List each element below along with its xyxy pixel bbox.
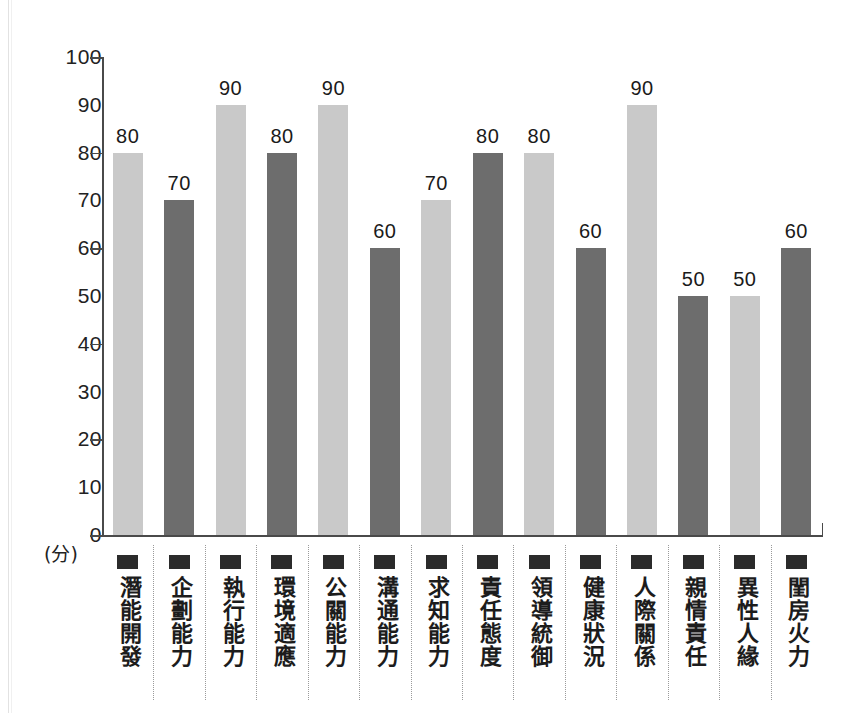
category-marker-icon bbox=[631, 555, 652, 569]
bar-value-label: 80 bbox=[106, 126, 150, 146]
bar-value-label: 80 bbox=[466, 126, 510, 146]
category-marker-icon bbox=[580, 555, 601, 569]
bar bbox=[473, 153, 503, 535]
category-label-text: 閨房火力 bbox=[784, 576, 808, 668]
bar bbox=[113, 153, 143, 535]
bar bbox=[524, 153, 554, 535]
category-label-3: 執行能力 bbox=[205, 545, 256, 705]
bar-value-label: 80 bbox=[260, 126, 304, 146]
category-label-11: 人際關係 bbox=[616, 545, 667, 705]
category-label-text: 求知能力 bbox=[424, 576, 448, 668]
y-axis-tick-label: 50 bbox=[44, 285, 102, 306]
category-label-12: 親情責任 bbox=[668, 545, 719, 705]
y-axis-tick-mark bbox=[90, 57, 102, 59]
category-label-8: 責任態度 bbox=[462, 545, 513, 705]
bar bbox=[164, 200, 194, 535]
bar bbox=[318, 105, 348, 535]
category-marker-icon bbox=[117, 555, 138, 569]
y-axis-tick-mark bbox=[90, 248, 102, 250]
bar-value-label: 50 bbox=[723, 269, 767, 289]
y-axis-tick-label: 30 bbox=[44, 381, 102, 402]
bar-value-label: 70 bbox=[157, 173, 201, 193]
category-label-text: 親情責任 bbox=[681, 576, 705, 668]
bar bbox=[678, 296, 708, 535]
category-label-text: 責任態度 bbox=[476, 576, 500, 668]
bar-chart-plot-area: (分) 100908070605040302010080潛能開發70企劃能力90… bbox=[0, 0, 865, 713]
category-label-1: 潛能開發 bbox=[102, 545, 153, 705]
y-axis-tick-label: 70 bbox=[44, 189, 102, 210]
category-label-text: 企劃能力 bbox=[167, 576, 191, 668]
bar-value-label: 60 bbox=[363, 221, 407, 241]
category-label-5: 公關能力 bbox=[308, 545, 359, 705]
y-axis-line bbox=[102, 57, 104, 535]
bar bbox=[267, 153, 297, 535]
category-marker-icon bbox=[477, 555, 498, 569]
bar bbox=[576, 248, 606, 535]
y-axis-tick-mark bbox=[90, 535, 102, 537]
bar-value-label: 90 bbox=[209, 78, 253, 98]
y-axis-tick-mark bbox=[90, 344, 102, 346]
bar bbox=[781, 248, 811, 535]
category-label-text: 人際關係 bbox=[630, 576, 654, 668]
bar bbox=[216, 105, 246, 535]
bar bbox=[421, 200, 451, 535]
category-label-2: 企劃能力 bbox=[153, 545, 204, 705]
chart-page: (分) 100908070605040302010080潛能開發70企劃能力90… bbox=[0, 0, 865, 713]
y-axis-unit-label: (分) bbox=[44, 545, 78, 564]
category-label-text: 執行能力 bbox=[219, 576, 243, 668]
y-axis-tick-label: 90 bbox=[44, 94, 102, 115]
bar-value-label: 80 bbox=[517, 126, 561, 146]
category-marker-icon bbox=[683, 555, 704, 569]
bar-value-label: 50 bbox=[671, 269, 715, 289]
y-axis-tick-label: 10 bbox=[44, 476, 102, 497]
bar-value-label: 60 bbox=[569, 221, 613, 241]
category-marker-icon bbox=[529, 555, 550, 569]
category-label-6: 溝通能力 bbox=[359, 545, 410, 705]
category-label-text: 溝通能力 bbox=[373, 576, 397, 668]
category-marker-icon bbox=[734, 555, 755, 569]
category-marker-icon bbox=[374, 555, 395, 569]
category-marker-icon bbox=[220, 555, 241, 569]
x-axis-right-cap bbox=[822, 523, 824, 536]
category-label-7: 求知能力 bbox=[411, 545, 462, 705]
category-marker-icon bbox=[271, 555, 292, 569]
y-axis-tick-mark bbox=[90, 439, 102, 441]
category-label-13: 異性人緣 bbox=[719, 545, 770, 705]
category-marker-icon bbox=[169, 555, 190, 569]
x-axis-line bbox=[102, 535, 823, 537]
category-label-text: 公關能力 bbox=[321, 576, 345, 668]
category-label-text: 環境適應 bbox=[270, 576, 294, 668]
bar bbox=[370, 248, 400, 535]
category-label-14: 閨房火力 bbox=[771, 545, 822, 705]
bar-value-label: 60 bbox=[774, 221, 818, 241]
category-label-text: 異性人緣 bbox=[733, 576, 757, 668]
category-label-text: 健康狀況 bbox=[579, 576, 603, 668]
category-label-4: 環境適應 bbox=[256, 545, 307, 705]
bar-value-label: 90 bbox=[620, 78, 664, 98]
category-marker-icon bbox=[426, 555, 447, 569]
bar-value-label: 90 bbox=[311, 78, 355, 98]
category-marker-icon bbox=[786, 555, 807, 569]
bar bbox=[627, 105, 657, 535]
category-label-10: 健康狀況 bbox=[565, 545, 616, 705]
category-label-text: 領導統御 bbox=[527, 576, 551, 668]
category-marker-icon bbox=[323, 555, 344, 569]
bar bbox=[730, 296, 760, 535]
category-label-text: 潛能開發 bbox=[116, 576, 140, 668]
y-axis-tick-mark bbox=[90, 153, 102, 155]
category-label-9: 領導統御 bbox=[513, 545, 564, 705]
bar-value-label: 70 bbox=[414, 173, 458, 193]
